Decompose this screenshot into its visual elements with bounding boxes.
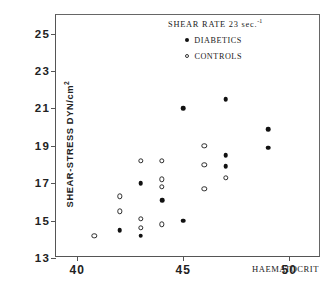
y-axis-tick: [51, 34, 56, 35]
y-axis-tick-label: 19: [35, 140, 50, 152]
data-point-controls: [138, 216, 143, 221]
y-axis-tick-label: 21: [35, 102, 50, 114]
data-point-diabetics: [181, 106, 186, 111]
legend: SHEAR RATE 23 sec.-1 DIABETICS CONTROLS: [150, 18, 315, 61]
data-point-controls: [202, 143, 207, 148]
data-point-controls: [202, 186, 207, 191]
data-point-controls: [159, 158, 164, 163]
data-point-diabetics: [181, 218, 186, 223]
legend-title-superscript: -1: [257, 18, 262, 24]
legend-label-controls: CONTROLS: [194, 52, 242, 61]
data-point-diabetics: [223, 97, 228, 102]
y-axis-tick: [51, 183, 56, 184]
data-point-controls: [117, 194, 122, 199]
x-axis-tick: [183, 256, 184, 261]
data-point-diabetics: [139, 181, 144, 186]
data-point-controls: [159, 222, 164, 227]
x-axis-tick: [289, 256, 290, 261]
data-point-controls: [159, 177, 164, 182]
data-point-controls: [91, 233, 96, 238]
x-axis-tick-label: 40: [70, 263, 85, 277]
data-point-controls: [138, 158, 143, 163]
x-axis-title: HAEMATOCRIT: [252, 264, 319, 274]
data-point-diabetics: [223, 164, 228, 169]
y-axis-tick-label: 17: [35, 177, 50, 189]
y-axis-tick-label: 25: [35, 28, 50, 40]
y-axis-tick: [51, 71, 56, 72]
open-circle-icon: [185, 54, 189, 58]
y-axis-tick: [51, 258, 56, 259]
y-axis-tick: [51, 221, 56, 222]
y-axis-tick: [51, 146, 56, 147]
data-point-controls: [202, 162, 207, 167]
data-point-diabetics: [139, 233, 144, 238]
y-axis-tick-label: 13: [35, 252, 50, 264]
data-point-diabetics: [266, 127, 271, 132]
data-point-controls: [138, 225, 143, 230]
legend-item-diabetics: DIABETICS: [150, 36, 315, 45]
data-point-diabetics: [223, 153, 228, 158]
filled-circle-icon: [185, 38, 189, 42]
legend-title-text: SHEAR RATE 23 sec.: [168, 20, 257, 29]
y-axis-tick-label: 23: [35, 65, 50, 77]
data-point-controls: [117, 209, 122, 214]
x-axis-tick: [77, 256, 78, 261]
data-point-diabetics: [117, 228, 122, 233]
y-axis-tick: [51, 108, 56, 109]
y-axis-tick-label: 15: [35, 215, 50, 227]
data-point-controls: [159, 184, 164, 189]
data-point-controls: [223, 175, 228, 180]
legend-label-diabetics: DIABETICS: [194, 36, 242, 45]
x-axis-tick-label: 45: [176, 263, 191, 277]
scatter-chart: SHEAR-STRESS DYN/cm2 1315171921232540455…: [0, 0, 329, 287]
data-point-diabetics: [160, 198, 165, 203]
legend-title: SHEAR RATE 23 sec.-1: [150, 18, 315, 29]
legend-item-controls: CONTROLS: [150, 52, 315, 61]
data-point-diabetics: [266, 145, 271, 150]
